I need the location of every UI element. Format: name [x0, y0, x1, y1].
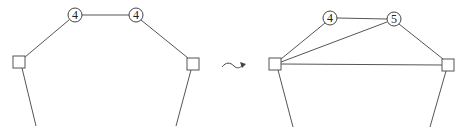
- square-node-a: [269, 58, 281, 70]
- before-graph: 4 4: [13, 8, 199, 126]
- graph-transformation-diagram: 4 4 4 5: [0, 0, 466, 139]
- node-label-c: 5: [391, 12, 397, 26]
- edge-c-d: [399, 24, 443, 59]
- edge-a-d: [281, 64, 442, 65]
- node-label-b: 4: [327, 11, 333, 25]
- pendant-edge-right: [430, 71, 446, 127]
- node-label-c: 4: [133, 8, 139, 22]
- edge-a-b: [25, 20, 69, 57]
- squiggle-arrow-icon: [222, 62, 246, 68]
- square-node-d: [442, 59, 454, 71]
- edge-a-c: [281, 22, 387, 62]
- node-label-b: 4: [72, 8, 78, 22]
- pendant-edge-left: [278, 70, 293, 127]
- after-graph: 4 5: [269, 11, 454, 127]
- edge-b-c: [337, 18, 387, 19]
- pendant-edge-right: [176, 70, 191, 126]
- square-node-a: [13, 56, 25, 68]
- edge-c-d: [141, 20, 188, 58]
- pendant-edge-left: [22, 68, 36, 126]
- square-node-d: [187, 58, 199, 70]
